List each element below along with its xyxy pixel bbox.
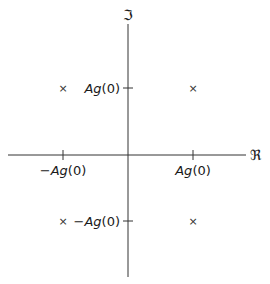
tick-label-real-neg: −Ag(0) (40, 163, 87, 178)
point-marker-q1: × (188, 82, 197, 95)
tick-label-imag-neg: −Ag(0) (74, 214, 121, 229)
point-marker-q4: × (188, 215, 197, 228)
imaginary-axis-label: ℑ (123, 7, 133, 23)
tick-label-real-pos: Ag(0) (174, 163, 211, 178)
complex-plane-diagram: ℑ ℜ Ag(0) −Ag(0) −Ag(0) Ag(0) × × × × (0, 0, 270, 284)
point-marker-q2: × (58, 82, 67, 95)
point-marker-q3: × (58, 215, 67, 228)
tick-label-imag-pos: Ag(0) (83, 81, 120, 96)
real-axis-label: ℜ (250, 147, 262, 163)
